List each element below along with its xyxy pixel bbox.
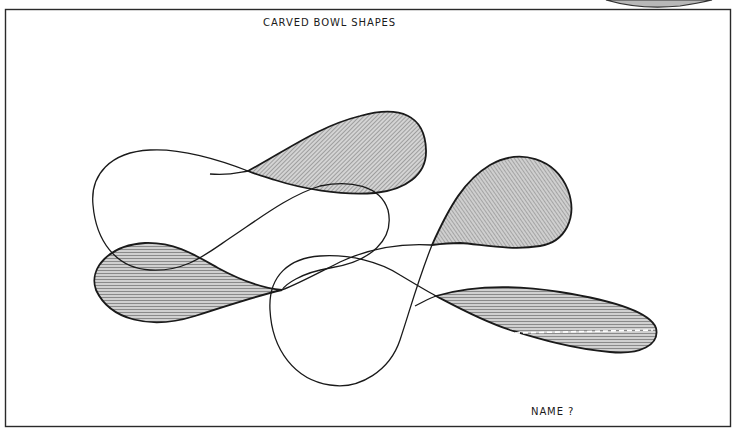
- drawing-frame: [6, 10, 731, 427]
- sheet-title: CARVED BOWL SHAPES: [263, 17, 396, 28]
- left-lower-lobe: [94, 243, 282, 322]
- right-lower-lobe: [436, 287, 657, 352]
- crossing-tail: [415, 296, 436, 306]
- right-upper-lobe: [432, 157, 571, 248]
- name-label: NAME ?: [531, 406, 574, 417]
- drawing-canvas: [0, 0, 750, 433]
- adjacent-sheet-fragment: [606, 0, 712, 7]
- center-open-loop: [270, 245, 436, 386]
- upper-center-lobe: [248, 112, 426, 194]
